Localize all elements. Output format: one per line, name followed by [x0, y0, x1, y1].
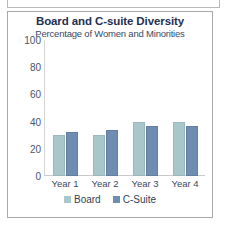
bar-c-suite	[106, 130, 118, 176]
bar-group	[48, 40, 82, 176]
screenshot-root: Board and C-suite Diversity Percentage o…	[0, 0, 230, 230]
bar-groups	[45, 40, 205, 176]
bar-board	[173, 122, 185, 176]
y-axis-tick: 40	[30, 116, 41, 127]
legend-swatch-icon	[113, 196, 120, 203]
y-axis-tick: 20	[30, 143, 41, 154]
legend-label: C-Suite	[123, 194, 156, 205]
y-axis-tick: 60	[30, 89, 41, 100]
chart-title: Board and C-suite Diversity	[8, 15, 212, 27]
legend-item[interactable]: Board	[64, 194, 101, 205]
x-axis-category-labels: Year 1Year 2Year 3Year 4	[45, 178, 205, 189]
bar-c-suite	[146, 126, 158, 176]
y-axis-tick: 100	[24, 35, 41, 46]
y-axis-tick: 80	[30, 62, 41, 73]
bar-group	[168, 40, 202, 176]
x-axis-label: Year 4	[168, 178, 202, 189]
plot-area: 020406080100	[45, 40, 205, 176]
x-axis-label: Year 3	[128, 178, 162, 189]
bar-group	[88, 40, 122, 176]
legend-label: Board	[74, 194, 101, 205]
page-edge-sliver	[7, 0, 220, 8]
bar-board	[93, 135, 105, 176]
x-axis-label: Year 1	[48, 178, 82, 189]
y-axis-tick: 0	[35, 171, 41, 182]
bar-board	[53, 135, 65, 176]
chart-figure: Board and C-suite Diversity Percentage o…	[7, 11, 213, 218]
bar-c-suite	[186, 126, 198, 176]
bar-c-suite	[66, 132, 78, 176]
bar-group	[128, 40, 162, 176]
x-axis-label: Year 2	[88, 178, 122, 189]
legend-swatch-icon	[64, 196, 71, 203]
chart-legend: BoardC-Suite	[8, 194, 212, 205]
legend-item[interactable]: C-Suite	[113, 194, 156, 205]
bar-board	[133, 122, 145, 176]
